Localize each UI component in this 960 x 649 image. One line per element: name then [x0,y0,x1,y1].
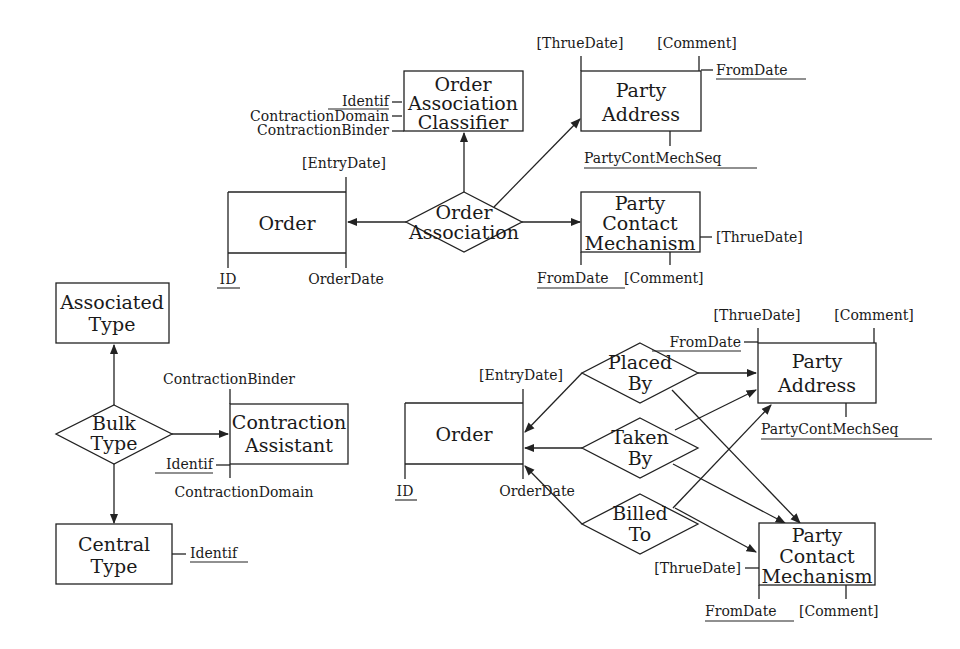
attribute-id: ID [220,271,237,287]
entity-label: Mechanism [585,232,696,254]
entity-label: Contact [779,545,855,567]
relationship-label: Order [435,201,493,223]
attribute-comment: [Comment] [799,603,879,619]
entity-label: Order [258,212,316,234]
entity-order-association-classifier: Order Association Classifier [404,71,523,133]
attribute-comment: [Comment] [624,270,704,286]
attribute-entry-date: [EntryDate] [302,155,386,171]
relationship-label: Type [91,432,138,454]
entity-party-contact-mechanism-bottom: Party Contact Mechanism [ThrueDate] From… [654,523,878,621]
attribute-from-date: FromDate [716,62,788,78]
entity-label: Associated [59,291,164,313]
relationship-billed-to: Billed To [582,494,698,554]
attribute-party-cont-mech-seq: PartyContMechSeq [761,421,899,437]
entity-label: Mechanism [762,565,873,587]
relationship-label: Association [408,221,519,243]
attribute-contraction-domain: ContractionDomain [175,484,314,500]
attribute-order-date: OrderDate [499,483,575,499]
relationship-label: Placed [608,351,672,373]
relationship-order-association: Order Association [406,192,522,252]
relationship-label: To [629,523,652,545]
attribute-contraction-binder: ContractionBinder [163,371,295,387]
attribute-comment: [Comment] [657,35,737,51]
attribute-from-date: FromDate [669,334,741,350]
relationship-label: By [628,372,653,394]
relationship-bulk-type: Bulk Type [56,405,172,464]
entity-label: Central [78,533,150,555]
entity-label: Address [601,103,680,125]
entity-party-address-top: Party Address [ThrueDate] [Comment] From… [537,35,806,168]
relationship-placed-by: Placed By [582,343,698,403]
relationship-label: Billed [612,502,668,524]
er-diagram: Order Association Classifier Identif Con… [0,0,960,649]
attribute-thrue-date: [ThrueDate] [537,35,624,51]
entity-central-type: Central Type Identif [56,524,248,584]
entity-label: Assistant [244,434,333,456]
attribute-comment: [Comment] [834,307,914,323]
entity-party-contact-mechanism-top: Party Contact Mechanism [ThrueDate] From… [537,192,803,288]
entity-label: Contact [602,212,678,234]
entity-associated-type: Associated Type [56,283,169,343]
attribute-thrue-date: [ThrueDate] [716,229,803,245]
entity-label: Party [616,79,667,101]
attribute-party-cont-mech-seq: PartyContMechSeq [584,150,722,166]
entity-order-bottom: Order [EntryDate] ID OrderDate [395,367,575,500]
entity-label: Type [89,313,136,335]
entity-label: Type [91,555,138,577]
attribute-thrue-date: [ThrueDate] [714,307,801,323]
attribute-contraction-binder: ContractionBinder [257,122,389,138]
attribute-id: ID [397,483,414,499]
edge-billed-to-party-address [673,405,771,508]
attribute-order-date: OrderDate [308,271,384,287]
attribute-from-date: FromDate [537,270,609,286]
entity-label: Party [615,192,666,214]
entity-label: Order [435,423,493,445]
entity-label: Address [777,374,856,396]
attribute-from-date: FromDate [705,603,777,619]
edge-taken-to-party-address [675,390,756,430]
entity-contraction-assistant: Contraction Assistant ContractionBinder … [155,371,348,500]
entity-label: Classifier [418,111,509,133]
attribute-thrue-date: [ThrueDate] [654,560,741,576]
relationship-label: Taken [611,426,669,448]
entity-label: Contraction [232,411,346,433]
attribute-identif: Identif [190,545,239,561]
edge-taken-to-pcm [673,464,785,523]
edge-placed-to-pcm [672,390,800,523]
classifier-attributes: Identif ContractionDomain ContractionBin… [250,93,404,138]
attribute-identif: Identif [342,93,391,109]
relationship-label: By [628,447,653,469]
entity-label: Party [792,524,843,546]
attribute-identif: Identif [166,456,215,472]
entity-label: Party [792,350,843,372]
attribute-entry-date: [EntryDate] [479,367,563,383]
relationship-label: Bulk [92,412,136,434]
